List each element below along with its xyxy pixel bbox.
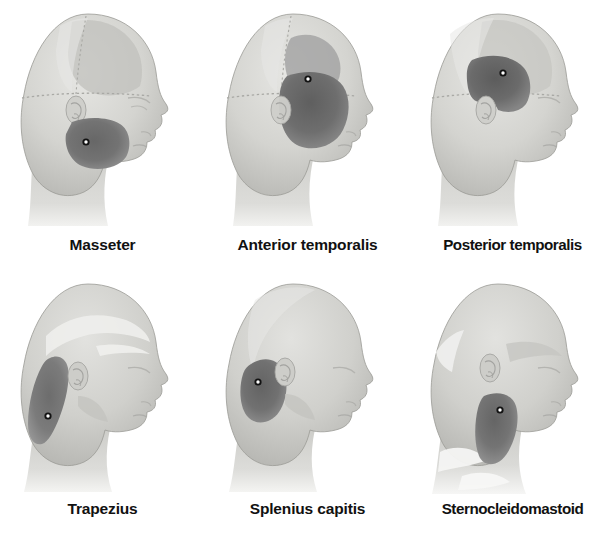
head-illustration-sternocleidomastoid xyxy=(410,272,615,500)
trigger-point-marker xyxy=(499,69,506,76)
trigger-point-marker xyxy=(304,75,311,82)
panel-masseter: Masseter xyxy=(0,0,205,275)
ear xyxy=(68,362,88,390)
panel-label-anterior-temporalis: Anterior temporalis xyxy=(205,236,410,254)
ear xyxy=(271,96,291,124)
head-illustration-splenius-capitis xyxy=(205,272,410,500)
head-illustration-posterior-temporalis xyxy=(410,0,615,238)
trigger-point-marker xyxy=(82,138,89,145)
pain-region xyxy=(66,118,130,169)
panel-posterior-temporalis: Posterior temporalis xyxy=(410,0,615,275)
panel-label-trapezius: Trapezius xyxy=(0,500,205,518)
panel-label-splenius-capitis: Splenius capitis xyxy=(205,500,410,518)
referred-pain-figure: Masseter xyxy=(0,0,616,551)
panel-label-masseter: Masseter xyxy=(0,236,205,254)
head-illustration-anterior-temporalis xyxy=(205,0,410,238)
ear xyxy=(480,354,500,382)
ear xyxy=(476,96,496,124)
panel-label-sternocleidomastoid: Sternocleidomastoid xyxy=(410,500,615,517)
panel-splenius-capitis: Splenius capitis xyxy=(205,272,410,547)
trigger-point-marker xyxy=(254,378,261,385)
panel-trapezius: Trapezius xyxy=(0,272,205,547)
trigger-point-marker xyxy=(496,406,503,413)
head-illustration-trapezius xyxy=(0,272,205,500)
trigger-point-marker xyxy=(44,412,51,419)
head-illustration-masseter xyxy=(0,0,205,238)
panel-anterior-temporalis: Anterior temporalis xyxy=(205,0,410,275)
panel-label-posterior-temporalis: Posterior temporalis xyxy=(410,236,615,253)
ear xyxy=(275,358,295,386)
panel-sternocleidomastoid: Sternocleidomastoid xyxy=(410,272,615,547)
